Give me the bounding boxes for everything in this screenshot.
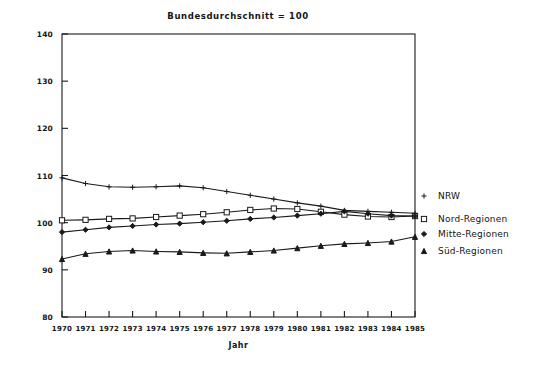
x-axis-tick-label: 1971 [75,325,95,333]
marker-diamond [224,218,229,223]
chart-page: Bundesdurchschnitt = 100 809010011012013… [0,0,556,371]
legend-label: Mitte-Regionen [438,229,509,239]
x-axis-tick-label: 1974 [146,325,166,333]
marker-square [201,212,206,217]
x-axis-tick-label: 1970 [52,325,72,333]
y-axis-tick-label: 110 [37,172,53,181]
y-axis-tick-label: 100 [37,219,53,228]
marker-diamond [83,227,88,232]
y-axis-tick-label: 130 [37,77,53,86]
x-axis-tick-label: 1979 [264,325,284,333]
x-axis-tick-label: 1976 [193,325,213,333]
legend-item[interactable]: NRW [421,191,460,201]
marker-square [421,216,426,221]
legend-item[interactable]: Nord-Regionen [421,214,507,224]
x-axis-tick-label: 1973 [122,325,142,333]
marker-square [271,206,276,211]
marker-square [106,216,111,221]
marker-triangle [365,240,370,245]
x-axis-tick-label: 1982 [334,325,354,333]
x-axis-tick-label: 1977 [217,325,237,333]
y-axis-tick-label: 140 [37,30,53,39]
marker-triangle [59,256,64,261]
marker-diamond [421,231,426,236]
x-axis-tick-label: 1980 [287,325,307,333]
legend-label: NRW [438,191,460,201]
marker-triangle [389,239,394,244]
series-line [62,178,415,213]
legend-label: Nord-Regionen [438,214,507,224]
marker-triangle [201,250,206,255]
marker-square [248,207,253,212]
marker-diamond [59,230,64,235]
line-chart: 8090100110120130140197019711972197319741… [0,0,556,371]
marker-square [154,214,159,219]
x-axis-tick-label: 1981 [311,325,331,333]
marker-triangle [412,234,417,239]
marker-square [224,210,229,215]
x-axis-tick-label: 1985 [405,325,425,333]
marker-triangle [154,249,159,254]
series-line [62,209,415,221]
marker-diamond [201,220,206,225]
marker-triangle [421,248,426,253]
y-axis-tick-label: 80 [42,313,53,322]
marker-diamond [130,223,135,228]
marker-triangle [130,248,135,253]
marker-triangle [224,251,229,256]
marker-triangle [177,249,182,254]
marker-square [295,206,300,211]
series-4 [59,234,417,261]
series-line [62,237,415,259]
marker-diamond [271,215,276,220]
x-axis-tick-label: 1975 [170,325,190,333]
legend-label: Süd-Regionen [438,246,503,256]
marker-square [130,216,135,221]
marker-diamond [295,213,300,218]
plot-frame [62,34,415,317]
x-axis-tick-label: 1984 [381,325,401,333]
series-1 [59,175,417,216]
marker-triangle [318,243,323,248]
legend-item[interactable]: Süd-Regionen [421,246,502,256]
marker-square [177,213,182,218]
marker-triangle [271,248,276,253]
marker-triangle [295,246,300,251]
marker-diamond [248,216,253,221]
marker-triangle [106,249,111,254]
x-axis-tick-label: 1983 [358,325,378,333]
marker-triangle [342,241,347,246]
legend-item[interactable]: Mitte-Regionen [421,229,509,239]
series-line [62,211,415,232]
marker-square [59,218,64,223]
marker-square [83,217,88,222]
x-axis-tick-label: 1978 [240,325,260,333]
marker-diamond [154,222,159,227]
y-axis-tick-label: 120 [37,124,53,133]
x-axis-label: Jahr [227,341,248,350]
marker-triangle [248,249,253,254]
series-3 [59,209,417,235]
marker-diamond [106,225,111,230]
marker-diamond [177,221,182,226]
x-axis-tick-label: 1972 [99,325,119,333]
marker-triangle [83,251,88,256]
y-axis-tick-label: 90 [42,266,53,275]
